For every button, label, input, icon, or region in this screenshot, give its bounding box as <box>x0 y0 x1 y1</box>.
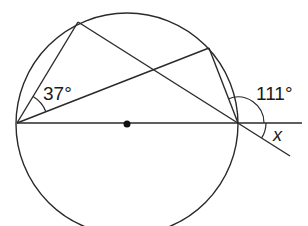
angle-arc-x <box>262 123 266 138</box>
chord-topright-right <box>209 48 238 123</box>
center-dot <box>124 121 131 128</box>
label-x: x <box>272 125 283 145</box>
label-111: 111° <box>256 83 292 104</box>
chord-left-topleft <box>17 22 78 123</box>
label-37: 37° <box>43 83 72 104</box>
circle <box>16 13 238 226</box>
geometry-diagram: 37° 111° x <box>0 0 308 226</box>
